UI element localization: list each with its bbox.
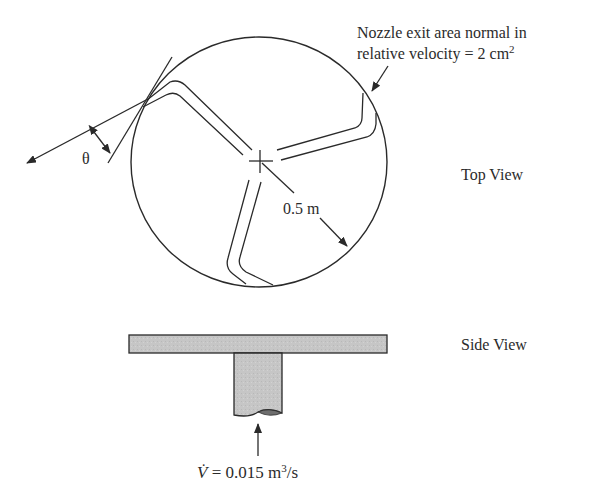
flow-rate-label: V̇ = 0.015 m3/s — [197, 462, 298, 483]
nozzle-arm-right — [277, 93, 376, 160]
nozzle-label-leader — [372, 66, 388, 91]
side-view-disk — [129, 335, 387, 353]
nozzle-arm-upper-left — [143, 81, 252, 155]
nozzle-area-line2: relative velocity = 2 cm2 — [357, 43, 527, 64]
radius-leader-upper — [262, 163, 294, 193]
radius-leader-lower — [320, 218, 347, 246]
nozzle-arm-lower — [227, 180, 273, 285]
top-view-label: Top View — [461, 164, 523, 185]
flow-symbol: V̇ — [197, 463, 207, 482]
theta-label: θ — [82, 148, 90, 169]
side-view-label: Side View — [461, 334, 527, 355]
theta-angle-arrow — [94, 132, 110, 153]
tangent-line — [108, 57, 172, 163]
nozzle-area-label: Nozzle exit area normal in relative velo… — [357, 22, 527, 64]
radius-label: 0.5 m — [283, 198, 319, 219]
nozzle-area-line1: Nozzle exit area normal in — [357, 22, 527, 43]
diagram-canvas — [0, 0, 594, 499]
side-view-shaft — [234, 353, 282, 416]
rotor-circle — [131, 37, 387, 287]
